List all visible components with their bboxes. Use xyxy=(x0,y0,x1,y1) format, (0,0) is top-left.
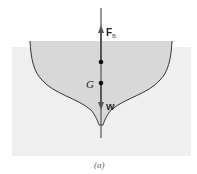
figure-caption: (a) xyxy=(94,160,105,170)
ship-buoyancy-diagram xyxy=(0,0,197,174)
center-of-gravity-label: G xyxy=(86,79,94,89)
buoyant-force-label: FB xyxy=(106,28,116,39)
center-of-gravity-dot xyxy=(99,81,104,86)
center-of-buoyancy-dot xyxy=(99,60,104,65)
weight-label: W xyxy=(106,102,115,112)
buoyant-force-arrowhead-icon xyxy=(98,25,104,33)
